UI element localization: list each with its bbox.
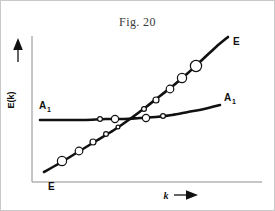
arrow-right-icon bbox=[174, 190, 198, 200]
curve-label-a1-left-subscript: 1 bbox=[47, 106, 51, 113]
figure-container: Fig. 20 E(k) k E E A 1 A bbox=[0, 0, 275, 211]
data-point-marker bbox=[161, 114, 166, 119]
data-point-marker bbox=[57, 156, 66, 165]
arrow-up-icon bbox=[13, 38, 23, 62]
figure-title: Fig. 20 bbox=[119, 15, 156, 29]
y-axis-label: E(k) bbox=[6, 91, 16, 108]
curve-label-a1-right-base: A bbox=[224, 92, 231, 103]
data-point-marker bbox=[116, 125, 120, 129]
curve-label-e-top: E bbox=[233, 36, 240, 47]
data-point-marker bbox=[90, 139, 96, 145]
data-point-marker bbox=[142, 107, 147, 112]
data-point-marker bbox=[166, 85, 174, 93]
curve-label-e-bottom: E bbox=[48, 181, 55, 192]
curve-label-a1-left-base: A bbox=[39, 100, 46, 111]
x-axis-label: k bbox=[164, 190, 169, 201]
curve-e bbox=[44, 37, 228, 172]
curve-label-a1-right-subscript: 1 bbox=[232, 98, 236, 105]
curve-label-a1-right: A 1 bbox=[224, 92, 236, 105]
figure-canvas: Fig. 20 E(k) k E E A 1 A bbox=[0, 0, 275, 211]
data-point-marker bbox=[111, 115, 118, 122]
curve-label-a1-left: A 1 bbox=[39, 100, 51, 113]
data-point-marker bbox=[153, 97, 159, 103]
data-point-marker bbox=[177, 73, 186, 82]
data-point-marker bbox=[75, 147, 83, 155]
data-point-marker bbox=[142, 114, 149, 121]
data-point-marker bbox=[104, 132, 109, 137]
data-point-marker bbox=[190, 60, 201, 71]
data-point-marker bbox=[98, 117, 103, 122]
